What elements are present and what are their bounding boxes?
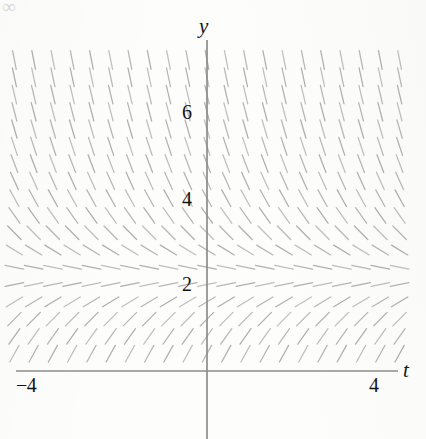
- slope-mark: [31, 120, 36, 138]
- slope-mark: [376, 345, 385, 362]
- slope-mark: [106, 345, 115, 362]
- slope-mark: [27, 312, 40, 326]
- slope-mark: [279, 345, 288, 362]
- slope-mark: [160, 297, 176, 307]
- slope-mark: [166, 68, 170, 87]
- slope-mark: [224, 68, 228, 87]
- y-tick-label-2: 2: [182, 274, 192, 294]
- slope-mark: [313, 283, 332, 287]
- slope-mark: [298, 329, 309, 345]
- slope-mark: [390, 265, 409, 269]
- slope-mark: [145, 190, 154, 207]
- slope-mark: [241, 345, 250, 362]
- slope-mark: [260, 190, 269, 207]
- slope-mark: [162, 312, 175, 326]
- slope-mark: [106, 190, 115, 207]
- slope-mark: [320, 120, 325, 138]
- slope-mark: [180, 245, 196, 255]
- slope-mark: [89, 103, 94, 121]
- slope-mark: [295, 297, 311, 307]
- slope-mark: [45, 245, 61, 255]
- slope-mark: [223, 137, 229, 155]
- slope-mark: [65, 312, 78, 326]
- slope-mark: [378, 85, 382, 104]
- slope-mark: [335, 312, 348, 326]
- slope-mark: [240, 208, 251, 224]
- slope-mark: [9, 329, 20, 345]
- slope-mark: [282, 68, 286, 87]
- slope-mark: [242, 155, 249, 173]
- slope-mark: [181, 312, 194, 326]
- slope-mark: [354, 226, 367, 240]
- slope-mark: [397, 137, 403, 155]
- slope-mark: [222, 172, 230, 189]
- slope-mark: [145, 172, 153, 189]
- slope-mark: [321, 51, 325, 70]
- slope-mark: [356, 208, 367, 224]
- slope-mark: [166, 120, 171, 138]
- slope-mark: [243, 85, 247, 104]
- slope-mark: [220, 226, 233, 240]
- slope-mark: [105, 208, 116, 224]
- slope-mark: [85, 312, 98, 326]
- slope-mark: [44, 265, 63, 269]
- slope-mark: [395, 190, 404, 207]
- slope-mark: [263, 85, 267, 104]
- slope-mark: [397, 120, 402, 138]
- slope-mark: [301, 120, 306, 138]
- slope-mark: [282, 85, 286, 104]
- slope-mark: [257, 245, 273, 255]
- y-axis-label: y: [199, 16, 208, 37]
- slope-mark: [294, 265, 313, 269]
- slope-mark: [262, 103, 267, 121]
- slope-mark: [70, 103, 75, 121]
- slope-mark: [26, 297, 42, 307]
- slope-mark: [103, 245, 119, 255]
- slope-mark: [236, 265, 255, 269]
- slope-mark: [243, 120, 248, 138]
- slope-mark: [8, 226, 21, 240]
- slope-mark: [294, 283, 313, 287]
- slope-mark: [301, 68, 305, 87]
- slope-mark: [390, 283, 409, 287]
- slope-mark: [354, 312, 367, 326]
- slope-mark: [140, 265, 159, 269]
- slope-mark: [6, 245, 22, 255]
- slope-mark: [239, 226, 252, 240]
- slope-mark: [159, 283, 178, 287]
- slope-mark: [372, 297, 388, 307]
- slope-mark: [374, 312, 387, 326]
- slope-mark: [352, 283, 371, 287]
- slope-mark: [357, 172, 365, 189]
- slope-mark: [141, 245, 157, 255]
- slope-mark: [90, 51, 94, 70]
- t-tick-label-minus-4: −4: [16, 375, 36, 395]
- slope-mark: [147, 68, 151, 87]
- slope-mark: [50, 120, 55, 138]
- direction-field-figure: ∞ y t 6 4 2 −4 4: [0, 0, 426, 439]
- slope-mark: [9, 208, 20, 224]
- slope-mark: [300, 137, 306, 155]
- slope-mark: [261, 172, 269, 189]
- slope-mark: [376, 190, 385, 207]
- slope-mark: [47, 329, 58, 345]
- slope-mark: [259, 329, 270, 345]
- slope-mark: [301, 103, 306, 121]
- t-axis-label: t: [403, 360, 409, 381]
- slope-mark: [31, 85, 35, 104]
- slope-mark: [10, 190, 19, 207]
- slope-mark: [46, 226, 59, 240]
- slope-mark: [321, 68, 325, 87]
- slope-mark: [371, 283, 390, 287]
- slope-mark: [339, 103, 344, 121]
- slope-mark: [124, 329, 135, 345]
- slope-mark: [144, 329, 155, 345]
- slope-mark: [64, 297, 80, 307]
- slope-mark: [358, 155, 365, 173]
- slope-mark: [182, 329, 193, 345]
- slope-mark: [109, 51, 113, 70]
- slope-mark: [140, 283, 159, 287]
- slope-mark: [143, 226, 156, 240]
- slope-mark: [46, 312, 59, 326]
- slope-mark: [50, 155, 57, 173]
